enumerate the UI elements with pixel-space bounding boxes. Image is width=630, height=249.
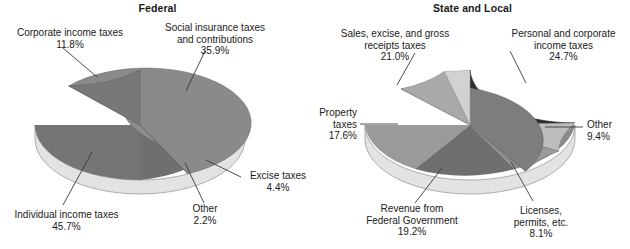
pie-label-sales-excise: Sales, excise, and gross receipts taxes …	[325, 28, 465, 63]
pie-label-property-taxes: Property taxes 17.6%	[315, 107, 357, 142]
chart-panel-state-and-local: State and Local Sales, excise, and gross…	[315, 0, 630, 249]
pie-label-revenue-federal-government: Revenue from Federal Government 19.2%	[342, 203, 482, 238]
pie-label-excise-taxes: Excise taxes 4.4%	[242, 170, 314, 193]
chart-panel-federal: Federal Corporate income taxes 11.8% Soc…	[0, 0, 315, 249]
leader-line-corporate-income	[63, 48, 97, 77]
pie-label-licenses-permits: Licenses, permits, etc. 8.1%	[493, 205, 589, 240]
pie-side-individual-federal	[35, 125, 140, 180]
pie-label-social-insurance: Social insurance taxes and contributions…	[152, 22, 278, 57]
pie-label-corporate-income: Corporate income taxes 11.8%	[0, 27, 140, 50]
pie-label-other-state: Other 9.4%	[587, 119, 630, 142]
pie-label-other-federal: Other 2.2%	[180, 203, 230, 226]
pie-label-personal-corporate-income: Personal and corporate income taxes 24.7…	[497, 28, 630, 63]
pie-label-individual-income: Individual income taxes 45.7%	[0, 209, 133, 232]
